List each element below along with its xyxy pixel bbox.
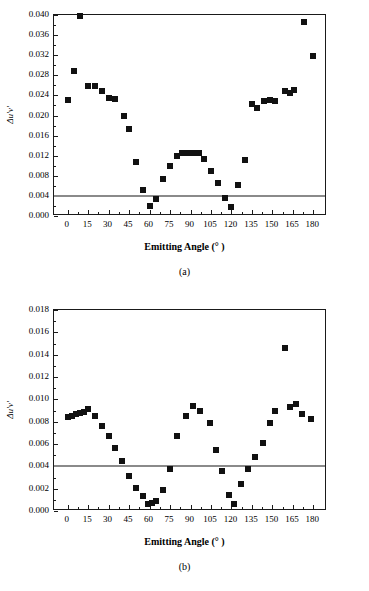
data-point — [308, 416, 314, 422]
data-point — [310, 53, 316, 59]
data-point — [77, 13, 83, 19]
data-point — [121, 113, 127, 119]
y-axis-tick — [54, 511, 58, 512]
reference-line — [54, 465, 325, 467]
data-point — [160, 487, 166, 493]
y-axis-minor-tick — [54, 85, 56, 86]
x-axis-minor-tick — [283, 507, 284, 509]
data-point — [301, 19, 307, 25]
x-tick-label: 105 — [203, 514, 217, 524]
x-axis-minor-tick — [180, 507, 181, 509]
data-point — [85, 83, 91, 89]
y-axis-tick — [54, 310, 58, 311]
y-tick-label: 0.040 — [29, 9, 49, 19]
data-point — [299, 411, 305, 417]
x-tick-label: 120 — [224, 514, 238, 524]
x-axis-title-a: Emitting Angle (° ) — [0, 241, 369, 252]
y-axis-minor-tick — [54, 25, 56, 26]
data-point — [254, 105, 260, 111]
panel-caption-a: (a) — [0, 266, 369, 277]
y-tick-label: 0.016 — [29, 130, 49, 140]
data-point — [213, 447, 219, 453]
x-tick-labels-b: 0153045607590105120135150165180 — [53, 514, 326, 528]
data-point — [238, 481, 244, 487]
y-axis-minor-tick — [54, 388, 56, 389]
data-point — [106, 433, 112, 439]
x-axis-tick — [88, 210, 89, 214]
data-point — [215, 180, 221, 186]
x-tick-label: 30 — [103, 219, 112, 229]
x-axis-tick — [313, 505, 314, 509]
x-axis-tick — [293, 505, 294, 509]
data-point — [92, 413, 98, 419]
x-axis-tick — [191, 505, 192, 509]
data-point — [291, 87, 297, 93]
y-tick-label: 0.000 — [29, 210, 49, 220]
y-axis-tick — [54, 355, 58, 356]
x-axis-minor-tick — [180, 212, 181, 214]
y-axis-tick — [54, 176, 58, 177]
x-axis-title-b: Emitting Angle (° ) — [0, 536, 369, 547]
data-point — [140, 493, 146, 499]
y-tick-labels-a: 0.0000.0040.0080.0120.0160.0200.0240.028… — [15, 14, 51, 215]
y-axis-tick — [54, 116, 58, 117]
reference-line — [54, 195, 325, 197]
x-axis-tick — [150, 210, 151, 214]
y-tick-label: 0.036 — [29, 29, 49, 39]
y-axis-tick — [54, 489, 58, 490]
y-tick-label: 0.004 — [29, 190, 49, 200]
x-axis-tick — [68, 210, 69, 214]
x-tick-label: 75 — [165, 219, 174, 229]
x-tick-label: 135 — [244, 514, 258, 524]
data-point — [197, 408, 203, 414]
data-point — [133, 485, 139, 491]
x-tick-label: 180 — [306, 219, 320, 229]
x-tick-label: 165 — [285, 514, 299, 524]
y-tick-label: 0.020 — [29, 110, 49, 120]
x-tick-labels-a: 0153045607590105120135150165180 — [53, 219, 326, 233]
y-axis-minor-tick — [54, 344, 56, 345]
x-tick-label: 60 — [144, 219, 153, 229]
data-point — [252, 454, 258, 460]
y-axis-tick — [54, 75, 58, 76]
x-tick-label: 0 — [64, 219, 69, 229]
x-tick-label: 135 — [244, 219, 258, 229]
x-axis-minor-tick — [201, 212, 202, 214]
x-axis-minor-tick — [242, 507, 243, 509]
x-axis-tick — [129, 210, 130, 214]
data-point — [235, 182, 241, 188]
x-axis-tick — [68, 505, 69, 509]
x-tick-label: 30 — [103, 514, 112, 524]
data-point — [226, 492, 232, 498]
x-axis-tick — [109, 505, 110, 509]
y-axis-tick — [54, 156, 58, 157]
y-axis-minor-tick — [54, 455, 56, 456]
data-point — [293, 401, 299, 407]
x-axis-tick — [170, 210, 171, 214]
data-point — [183, 413, 189, 419]
y-axis-minor-tick — [54, 146, 56, 147]
x-axis-tick — [170, 505, 171, 509]
y-axis-tick — [54, 55, 58, 56]
x-axis-tick — [313, 210, 314, 214]
data-point — [119, 458, 125, 464]
data-point — [272, 98, 278, 104]
y-axis-tick — [54, 216, 58, 217]
panel-caption-b: (b) — [0, 561, 369, 572]
x-axis-tick — [252, 210, 253, 214]
x-axis-tick — [129, 505, 130, 509]
data-point — [153, 498, 159, 504]
x-axis-minor-tick — [139, 507, 140, 509]
y-tick-label: 0.008 — [29, 416, 49, 426]
x-tick-label: 150 — [265, 219, 279, 229]
y-tick-label: 0.024 — [29, 89, 49, 99]
y-axis-minor-tick — [54, 126, 56, 127]
y-tick-label: 0.032 — [29, 49, 49, 59]
data-point — [282, 345, 288, 351]
plot-area-b — [53, 309, 326, 510]
x-axis-minor-tick — [78, 212, 79, 214]
y-axis-minor-tick — [54, 186, 56, 187]
data-point — [207, 420, 213, 426]
y-axis-minor-tick — [54, 321, 56, 322]
y-tick-label: 0.018 — [29, 304, 49, 314]
